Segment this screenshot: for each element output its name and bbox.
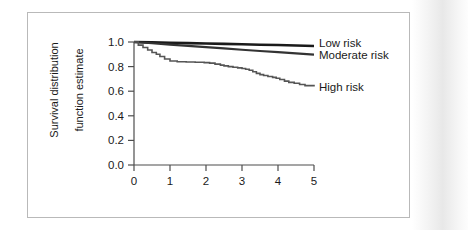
chart-legend: Low riskModerate riskHigh risk xyxy=(319,37,389,93)
legend-label: Low risk xyxy=(319,37,361,49)
survival-curve-chart: 0.00.20.40.60.81.0 012345 Low riskModera… xyxy=(28,13,411,219)
x-tick-label: 1 xyxy=(167,175,173,187)
y-tick-label: 0.6 xyxy=(108,85,124,97)
y-tick-label: 0.2 xyxy=(108,134,124,146)
y-tick-label: 1.0 xyxy=(108,36,124,48)
y-tick-label: 0.0 xyxy=(108,159,124,171)
figure-frame: Survival distribution function estimate … xyxy=(27,12,410,218)
x-tick-label: 5 xyxy=(311,175,317,187)
x-tick-label: 0 xyxy=(131,175,137,187)
y-tick-label: 0.8 xyxy=(108,61,124,73)
legend-label: Moderate risk xyxy=(319,49,389,61)
figure-page: Survival distribution function estimate … xyxy=(0,0,468,230)
y-axis-ticks: 0.00.20.40.60.81.0 xyxy=(108,36,134,171)
x-tick-label: 2 xyxy=(203,175,209,187)
legend-label: High risk xyxy=(319,81,364,93)
series-lines xyxy=(134,42,314,87)
x-axis-ticks: 012345 xyxy=(131,165,317,187)
y-tick-label: 0.4 xyxy=(108,110,125,122)
scan-shadow xyxy=(412,0,468,230)
x-tick-label: 3 xyxy=(239,175,245,187)
x-tick-label: 4 xyxy=(275,175,282,187)
